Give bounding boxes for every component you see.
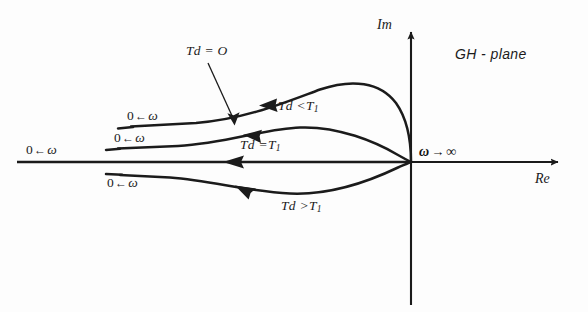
curve-label-td-zero: Td = O (186, 44, 228, 58)
curve-label-td-lt-t1: Td <T1 (278, 99, 319, 115)
omega-tail-td-lt (106, 149, 120, 150)
omega-to-zero-label-td-zero: 0←ω (127, 109, 158, 123)
curve-label-td-eq-t1-main: Td =T (240, 137, 276, 152)
curve-label-td-lt-t1-main: Td <T (278, 98, 314, 113)
omega-zero-digit: 0 (26, 142, 33, 157)
omega-zero-digit: 0 (127, 108, 134, 123)
curve-label-td-gt-t1: Td >T1 (281, 199, 322, 215)
left-arrow-icon: ← (114, 176, 128, 190)
nyquist-figure: Td = O Td <T1 Td =T1 Td >T1 0←ω 0←ω 0←ω … (0, 0, 588, 312)
left-arrow-icon: ← (134, 109, 148, 123)
omega-symbol: ω (128, 175, 138, 190)
right-arrow-icon: → (429, 144, 446, 159)
omega-to-zero-label-real-axis: 0←ω (26, 143, 57, 157)
curve-label-td-gt-t1-main: Td >T (281, 198, 317, 213)
curve-label-td-gt-t1-sub: 1 (317, 204, 322, 214)
curve-td-eq-t1 (17, 155, 411, 168)
left-arrow-icon: ← (33, 143, 47, 157)
omega-symbol: ω (47, 142, 57, 157)
curve-label-td-lt-t1-sub: 1 (314, 104, 319, 114)
td-zero-callout-line (208, 63, 233, 118)
omega-symbol: ω (419, 144, 429, 159)
real-axis-label: Re (535, 172, 550, 186)
omega-zero-digit: 0 (114, 130, 121, 145)
curve-td-gt-t1-direction-arrow (235, 185, 256, 199)
plane-label: GH - plane (455, 47, 527, 61)
left-arrow-icon: ← (121, 131, 135, 145)
omega-to-zero-label-td-lt-t1: 0←ω (114, 131, 145, 145)
omega-to-infinity-label: ω→∞ (419, 145, 456, 159)
omega-to-zero-label-td-gt-t1: 0←ω (107, 176, 138, 190)
infinity-symbol: ∞ (446, 144, 456, 159)
omega-symbol: ω (135, 130, 145, 145)
curve-label-td-eq-t1-sub: 1 (276, 143, 281, 153)
imaginary-axis-label: Im (377, 18, 392, 32)
curve-label-td-eq-t1: Td =T1 (240, 138, 281, 154)
curve-td-eq-t1-direction-arrow (223, 155, 244, 168)
omega-symbol: ω (148, 108, 158, 123)
axis-group (17, 32, 558, 305)
curve-td-gt-t1-path (120, 162, 411, 194)
curve-td-gt-t1 (120, 162, 411, 200)
omega-tail-td-zero (118, 127, 133, 129)
omega-zero-digit: 0 (107, 175, 114, 190)
